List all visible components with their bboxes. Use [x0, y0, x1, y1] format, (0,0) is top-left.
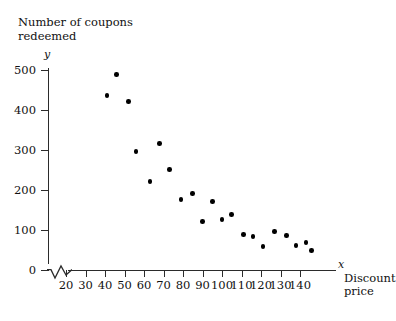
- scatter-point: [190, 191, 195, 196]
- x-tick: [183, 270, 184, 277]
- y-tick: [41, 70, 49, 71]
- x-axis-label: Discount price: [344, 272, 396, 298]
- x-axis-letter: x: [338, 258, 344, 271]
- y-axis-letter: y: [44, 48, 50, 61]
- x-tick: [222, 270, 223, 277]
- scatter-point: [272, 229, 277, 234]
- scatter-point: [126, 99, 131, 104]
- y-tick: [41, 230, 49, 231]
- y-tick: [41, 190, 49, 191]
- x-tick: [66, 270, 67, 277]
- scatter-point: [179, 197, 184, 202]
- scatter-point: [284, 233, 289, 238]
- scatter-point: [309, 248, 314, 253]
- scatter-point: [200, 219, 205, 224]
- scatter-point: [157, 141, 162, 146]
- chart-title: Number of coupons redeemed: [18, 16, 188, 43]
- y-tick-label: 500: [2, 63, 36, 77]
- y-tick-label: 300: [2, 143, 36, 157]
- y-axis-line: [48, 68, 49, 264]
- y-tick-label: 0: [2, 263, 36, 277]
- x-tick: [105, 270, 106, 277]
- x-tick: [86, 270, 87, 277]
- x-tick: [300, 270, 301, 277]
- scatter-point: [210, 199, 215, 204]
- x-tick: [144, 270, 145, 277]
- scatter-point: [304, 240, 309, 245]
- y-tick-label: 200: [2, 183, 36, 197]
- scatter-point: [241, 232, 246, 237]
- scatter-point: [294, 243, 299, 248]
- y-tick-label: 100: [2, 223, 36, 237]
- x-tick: [242, 270, 243, 277]
- x-tick: [281, 270, 282, 277]
- scatter-point: [114, 72, 119, 77]
- scatter-point: [167, 167, 172, 172]
- y-tick: [41, 270, 49, 271]
- chart-canvas: Number of coupons redeemed y 01002003004…: [0, 0, 396, 321]
- scatter-point: [251, 234, 256, 239]
- scatter-point: [229, 212, 234, 217]
- scatter-point: [261, 244, 266, 249]
- x-tick: [261, 270, 262, 277]
- y-tick-label: 400: [2, 103, 36, 117]
- x-tick: [203, 270, 204, 277]
- scatter-point: [220, 217, 225, 222]
- y-tick: [41, 110, 49, 111]
- y-tick: [41, 150, 49, 151]
- scatter-point: [148, 179, 153, 184]
- scatter-point: [134, 149, 139, 154]
- x-tick: [125, 270, 126, 277]
- scatter-point: [105, 93, 110, 98]
- x-tick-label: 140: [285, 278, 315, 292]
- x-tick: [164, 270, 165, 277]
